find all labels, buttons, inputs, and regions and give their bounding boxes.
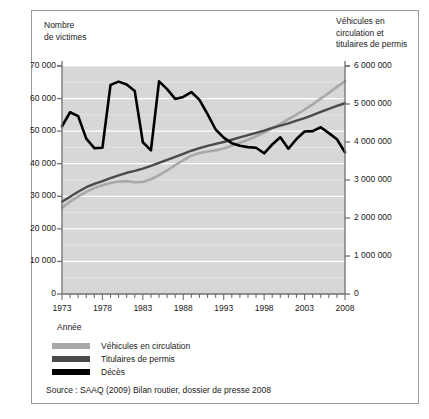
x-axis-tick-label-1983: 1983: [123, 303, 163, 313]
legend-swatch-icon: [52, 356, 90, 362]
y2-axis-tick-label-6000000: 6 000 000: [354, 60, 426, 70]
legend-item-label: Titulaires de permis: [101, 354, 175, 364]
legend-item-label: Véhicules en circulation: [101, 341, 190, 351]
figure-root: Nombre de victimes Véhicules en circulat…: [0, 0, 429, 419]
y-axis-tick-label-30000: 30 000: [4, 190, 56, 200]
y2-axis-tick-label-0: 0: [354, 288, 426, 298]
x-axis-tick-label-2003: 2003: [285, 303, 325, 313]
chart-legend: Véhicules en circulationTitulaires de pe…: [52, 339, 352, 378]
source-note: Source : SAAQ (2009) Bilan routier, doss…: [46, 385, 271, 395]
y2-axis-tick-label-4000000: 4 000 000: [354, 136, 426, 146]
y-axis-tick-label-50000: 50 000: [4, 125, 56, 135]
x-axis-tick-label-1978: 1978: [82, 303, 122, 313]
y-axis-tick-label-20000: 20 000: [4, 223, 56, 233]
y2-axis-tick-label-3000000: 3 000 000: [354, 174, 426, 184]
legend-item-label: Décès: [101, 367, 125, 377]
legend-item-2: Titulaires de permis: [52, 352, 352, 365]
y-axis-tick-label-40000: 40 000: [4, 158, 56, 168]
x-axis-tick-label-2008: 2008: [325, 303, 365, 313]
legend-item-1: Véhicules en circulation: [52, 339, 352, 352]
y-axis-tick-label-60000: 60 000: [4, 93, 56, 103]
y-axis-tick-label-70000: 70 000: [4, 60, 56, 70]
legend-item-3: Décès: [52, 365, 352, 378]
legend-swatch-icon: [52, 343, 90, 349]
x-axis-tick-label-1993: 1993: [204, 303, 244, 313]
x-axis-tick-label-1998: 1998: [244, 303, 284, 313]
y-axis-tick-label-10000: 10 000: [4, 255, 56, 265]
y2-axis-tick-label-1000000: 1 000 000: [354, 250, 426, 260]
y-axis-tick-label-0: 0: [4, 288, 56, 298]
y2-axis-tick-label-2000000: 2 000 000: [354, 212, 426, 222]
y2-axis-tick-label-5000000: 5 000 000: [354, 98, 426, 108]
legend-swatch-icon: [52, 369, 90, 375]
x-axis-tick-label-1973: 1973: [42, 303, 82, 313]
x-axis-tick-label-1988: 1988: [163, 303, 203, 313]
